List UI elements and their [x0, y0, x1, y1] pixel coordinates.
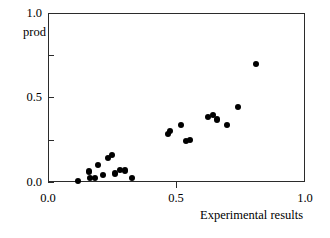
x-axis-tick-label-0.0: 0.0 [28, 192, 68, 204]
scatter-plot-figure: 1.0 0.5 0.0 prod 0.0 0.5 1.0 Experimenta… [0, 0, 330, 238]
y-axis-tick-0.0 [48, 182, 54, 183]
y-axis-tick-0.25 [48, 140, 54, 141]
y-axis-title: prod [10, 26, 46, 39]
x-axis-title: Experimental results [200, 208, 303, 222]
y-axis-tick-label-1.0: 1.0 [2, 7, 42, 19]
x-axis-tick-label-1.0: 1.0 [285, 192, 325, 204]
plot-area-frame [48, 13, 305, 182]
y-axis-tick-label-0.5: 0.5 [2, 91, 42, 103]
y-axis-tick-label-0.0: 0.0 [2, 176, 42, 188]
x-axis-tick-0.5 [176, 182, 177, 188]
y-axis-tick-0.5 [48, 97, 54, 98]
x-axis-tick-label-0.5: 0.5 [156, 192, 196, 204]
y-axis-tick-0.75 [48, 55, 54, 56]
y-axis-tick-1.0 [48, 13, 54, 14]
